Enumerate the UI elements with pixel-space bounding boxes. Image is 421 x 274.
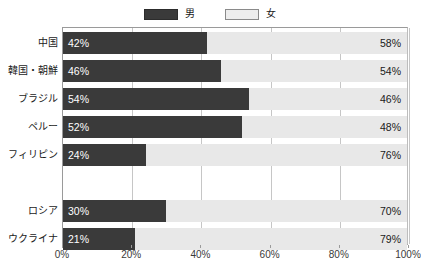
- bar-row: 24%76%: [63, 144, 407, 166]
- axis-tick: [339, 245, 340, 248]
- axis-tick-label: 40%: [190, 249, 210, 260]
- bar-row: 30%70%: [63, 200, 407, 222]
- bar-rows: 42%58%46%54%54%46%52%48%24%76%30%70%21%7…: [63, 28, 407, 244]
- axis-tick: [62, 245, 63, 248]
- bar-value-female: 46%: [380, 94, 407, 105]
- bar-row: 42%58%: [63, 32, 407, 54]
- value-axis: 0%20%40%60%80%100%: [62, 245, 408, 265]
- bar-segment-female: 58%: [207, 32, 407, 54]
- axis-tick-label: 60%: [260, 249, 280, 260]
- axis-tick-label: 0%: [55, 249, 69, 260]
- axis-tick: [270, 245, 271, 248]
- bar-segment-male: 54%: [63, 88, 249, 110]
- category-label: 韓国・朝鮮: [8, 59, 58, 81]
- bar-value-male: 52%: [63, 122, 89, 133]
- bar-segment-female: 54%: [221, 60, 407, 82]
- category-label: ブラジル: [18, 87, 58, 109]
- category-label: ウクライナ: [8, 227, 58, 249]
- legend-swatch-male-icon: [144, 9, 178, 20]
- bar-row: 54%46%: [63, 88, 407, 110]
- category-label: ペルー: [28, 115, 58, 137]
- axis-tick: [408, 245, 409, 248]
- bar-value-male: 21%: [63, 234, 89, 245]
- bar-segment-male: 46%: [63, 60, 221, 82]
- axis-tick-label: 100%: [395, 249, 421, 260]
- bar-row: 52%48%: [63, 116, 407, 138]
- bar-value-male: 46%: [63, 66, 89, 77]
- axis-tick-label: 80%: [329, 249, 349, 260]
- bar-value-female: 70%: [380, 206, 407, 217]
- bar-value-female: 48%: [380, 122, 407, 133]
- category-label: ロシア: [28, 199, 58, 221]
- bar-row: 46%54%: [63, 60, 407, 82]
- legend-item-female: 女: [225, 9, 276, 20]
- category-axis-labels: 中国韓国・朝鮮ブラジルペルーフィリピンロシアウクライナ: [0, 27, 58, 245]
- bar-segment-female: 70%: [166, 200, 407, 222]
- bar-value-male: 42%: [63, 38, 89, 49]
- bar-value-female: 79%: [380, 234, 407, 245]
- axis-tick-label: 20%: [121, 249, 141, 260]
- bar-value-female: 58%: [380, 38, 407, 49]
- bar-value-female: 76%: [380, 150, 407, 161]
- legend-swatch-female-icon: [225, 9, 259, 20]
- bar-segment-male: 30%: [63, 200, 166, 222]
- bar-value-female: 54%: [380, 66, 407, 77]
- bar-segment-male: 24%: [63, 144, 146, 166]
- bar-segment-female: 46%: [249, 88, 407, 110]
- plot-area: 42%58%46%54%54%46%52%48%24%76%30%70%21%7…: [62, 27, 408, 245]
- axis-tick: [200, 245, 201, 248]
- bar-segment-female: 76%: [146, 144, 407, 166]
- legend-label-male: 男: [185, 9, 195, 19]
- bar-value-male: 24%: [63, 150, 89, 161]
- bar-value-male: 30%: [63, 206, 89, 217]
- bar-segment-male: 42%: [63, 32, 207, 54]
- chart-legend: 男 女: [0, 4, 419, 24]
- legend-item-male: 男: [144, 9, 195, 20]
- bar-segment-male: 52%: [63, 116, 242, 138]
- category-label: フィリピン: [8, 143, 58, 165]
- axis-tick: [131, 245, 132, 248]
- category-label: 中国: [38, 31, 58, 53]
- gridline: [409, 28, 410, 244]
- legend-label-female: 女: [266, 9, 276, 19]
- bar-value-male: 54%: [63, 94, 89, 105]
- bar-segment-female: 48%: [242, 116, 407, 138]
